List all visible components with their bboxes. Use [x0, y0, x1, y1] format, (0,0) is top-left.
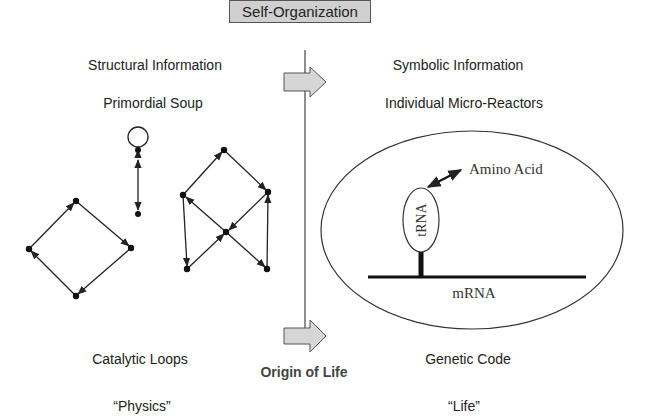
amino-acid-arrow	[428, 170, 461, 187]
trna-label: tRNA	[414, 202, 429, 236]
diagram-canvas: Amino Acid tRNA mRNA	[0, 0, 652, 416]
mrna-label: mRNA	[452, 285, 496, 301]
catalytic-network	[183, 150, 268, 269]
self-replicator-chain	[128, 127, 148, 210]
catalytic-loop-diamond	[29, 201, 131, 296]
amino-acid-label: Amino Acid	[469, 161, 543, 177]
